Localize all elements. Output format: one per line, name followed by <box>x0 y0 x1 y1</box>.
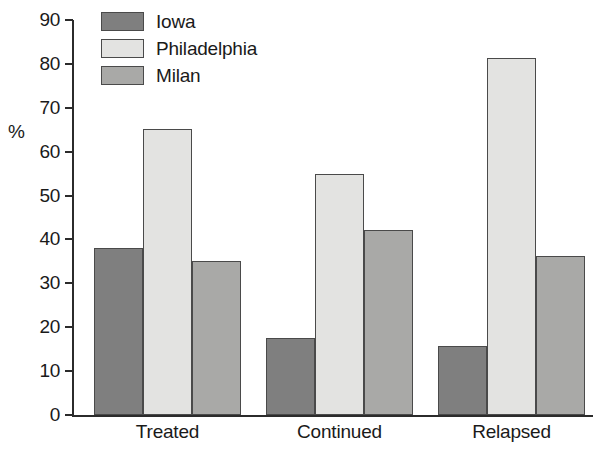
bar <box>192 261 241 415</box>
y-axis-tick <box>65 63 73 65</box>
legend-swatch-icon <box>101 39 144 58</box>
y-axis-tick-label: 10 <box>26 361 60 380</box>
y-axis-tick-label: 0 <box>26 405 60 424</box>
bar-chart: % 0102030405060708090 TreatedContinuedRe… <box>0 0 601 450</box>
bar <box>536 256 585 415</box>
bar <box>143 129 192 415</box>
y-axis-tick-label-wrap: 40 <box>0 229 60 248</box>
y-axis-tick-label: 90 <box>26 10 60 29</box>
y-axis-tick <box>65 19 73 21</box>
y-axis-tick-label-wrap: 90 <box>0 10 60 29</box>
y-axis-tick-label: 60 <box>26 142 60 161</box>
x-axis-line <box>72 415 593 417</box>
y-axis-tick <box>65 195 73 197</box>
y-axis-tick-label-wrap: 0 <box>0 405 60 424</box>
y-axis-tick-label: 80 <box>26 54 60 73</box>
y-axis-tick <box>65 370 73 372</box>
legend-item: Milan <box>101 63 261 88</box>
y-axis-tick <box>65 414 73 416</box>
legend-swatch-icon <box>101 66 144 85</box>
chart-legend: IowaPhiladelphiaMilan <box>101 9 261 90</box>
bar <box>315 174 364 415</box>
legend-item-label: Iowa <box>156 12 195 31</box>
x-axis-group-label: Relapsed <box>432 421 592 443</box>
bar <box>487 58 536 415</box>
bar <box>94 248 143 415</box>
y-axis-tick-label: 70 <box>26 98 60 117</box>
y-axis-tick <box>65 107 73 109</box>
bar <box>438 346 487 415</box>
y-axis-tick <box>65 326 73 328</box>
legend-item: Philadelphia <box>101 36 261 61</box>
y-axis-tick-label: 40 <box>26 229 60 248</box>
y-axis-tick-label-wrap: 50 <box>0 186 60 205</box>
y-axis-tick-label-wrap: 10 <box>0 361 60 380</box>
legend-item-label: Philadelphia <box>156 39 257 58</box>
y-axis-tick-label: 50 <box>26 186 60 205</box>
bar <box>364 230 413 415</box>
y-axis-title: % <box>8 122 25 141</box>
legend-item-label: Milan <box>156 66 200 85</box>
legend-item: Iowa <box>101 9 261 34</box>
y-axis-tick <box>65 282 73 284</box>
y-axis-tick-label-wrap: 70 <box>0 98 60 117</box>
x-axis-group-label: Continued <box>260 421 420 443</box>
bar <box>266 338 315 415</box>
y-axis-tick <box>65 238 73 240</box>
y-axis-tick-label-wrap: 60 <box>0 142 60 161</box>
x-axis-group-label: Treated <box>88 421 248 443</box>
y-axis-tick <box>65 151 73 153</box>
y-axis-tick-label: 20 <box>26 317 60 336</box>
y-axis-tick-label: 30 <box>26 273 60 292</box>
y-axis-tick-label-wrap: 80 <box>0 54 60 73</box>
y-axis-tick-label-wrap: 20 <box>0 317 60 336</box>
y-axis-tick-label-wrap: 30 <box>0 273 60 292</box>
legend-swatch-icon <box>101 12 144 31</box>
